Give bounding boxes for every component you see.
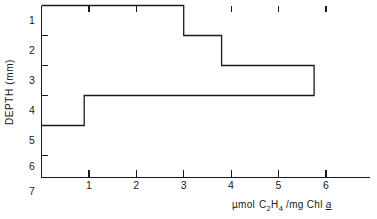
y-tick-label: 1 [29,14,35,26]
x-axis-title-h-sub: 4 [279,204,283,213]
x-axis-title-mg-chl: /mg Chl [286,199,323,210]
top-axis-ticks [89,6,326,13]
x-axis-ticks [89,170,326,178]
y-tick-label: 2 [29,44,35,56]
x-axis-title: µmolC2H4/mg Chla [232,199,332,213]
y-axis-tick-labels: 1 2 3 4 5 6 7 [29,14,35,197]
x-tick-label: 2 [133,179,139,191]
x-tick-label: 5 [275,179,281,191]
x-tick-label: 1 [86,179,92,191]
x-axis-title-umol: µmol [232,199,255,210]
y-axis-title: DEPTH (mm) [4,59,15,125]
x-axis-title-c: C [259,199,267,210]
x-tick-label: 3 [181,179,187,191]
figure-container: 1 2 3 4 5 6 7 1 2 3 [0,0,377,219]
y-tick-label: 4 [29,104,35,116]
y-tick-label: 6 [29,160,35,172]
x-axis-title-h: H [271,199,279,210]
x-tick-label: 4 [228,179,234,191]
x-axis-tick-labels: 1 2 3 4 5 6 [86,179,329,191]
y-axis-ticks [42,36,48,156]
depth-profile-step-outline [42,6,315,126]
x-axis-title-species: a [326,199,332,210]
y-tick-label: 3 [29,74,35,86]
x-tick-label: 6 [323,179,329,191]
y-tick-label: 7 [29,185,35,197]
y-tick-label: 5 [29,134,35,146]
bar-chart: 1 2 3 4 5 6 7 1 2 3 [0,0,377,219]
